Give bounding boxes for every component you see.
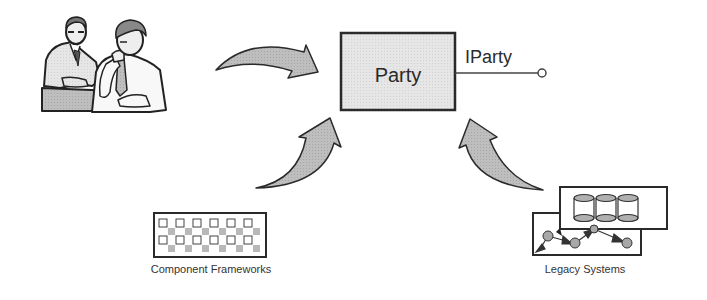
iparty-interface: IParty [455, 47, 546, 77]
framework-slot [210, 236, 218, 244]
framework-slot [244, 236, 252, 244]
framework-filled-slot [202, 228, 209, 235]
framework-filled-slot [253, 228, 260, 235]
framework-filled-slot [236, 245, 243, 252]
party-component: Party [341, 33, 455, 110]
businessmen-meeting-icon [42, 17, 166, 112]
framework-filled-slot [219, 245, 226, 252]
interface-label: IParty [465, 47, 512, 67]
framework-filled-slot [168, 228, 175, 235]
component-frameworks-label: Component Frameworks [151, 263, 272, 275]
framework-slot [227, 219, 235, 227]
framework-filled-slot [202, 245, 209, 252]
framework-filled-slot [185, 228, 192, 235]
interface-lollipop-icon [538, 69, 546, 77]
arrow-legacy-to-party [459, 119, 543, 190]
framework-slot [193, 219, 201, 227]
database-cylinder-icon [574, 195, 594, 222]
framework-filled-slot [236, 228, 243, 235]
framework-filled-slot [253, 245, 260, 252]
framework-slot [227, 236, 235, 244]
component-frameworks: Component Frameworks [151, 213, 272, 275]
component-framework-grid-icon [154, 213, 266, 257]
party-label: Party [375, 64, 422, 86]
framework-filled-slot [168, 245, 175, 252]
framework-slot [176, 236, 184, 244]
framework-slot [193, 236, 201, 244]
framework-filled-slot [185, 245, 192, 252]
legacy-systems-label: Legacy Systems [545, 263, 626, 275]
legacy-systems: Legacy Systems [533, 187, 667, 275]
arrow-frameworks-to-party [256, 118, 341, 188]
diagram-canvas: Party IParty Component Frameworks [0, 0, 707, 300]
framework-slot [159, 236, 167, 244]
legacy-database-network-icon [533, 187, 667, 255]
framework-filled-slot [219, 228, 226, 235]
database-cylinder-icon [596, 195, 616, 222]
arrow-people-to-party [216, 45, 318, 78]
framework-slot [244, 219, 252, 227]
framework-slot [210, 219, 218, 227]
framework-slot [159, 219, 167, 227]
framework-slot [176, 219, 184, 227]
database-cylinder-icon [618, 195, 638, 222]
